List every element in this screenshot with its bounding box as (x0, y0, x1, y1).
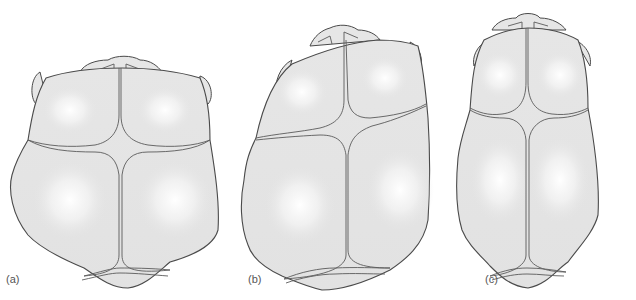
panel-a: (a) (6, 56, 218, 288)
panel-label-c: (c) (485, 273, 498, 285)
panel-c: (c) (457, 14, 599, 289)
panel-b: (b) (241, 25, 434, 290)
skull-shapes-diagram: (a) (b) (c) (0, 0, 636, 300)
panel-label-a: (a) (6, 273, 19, 285)
panel-label-b: (b) (248, 273, 261, 285)
